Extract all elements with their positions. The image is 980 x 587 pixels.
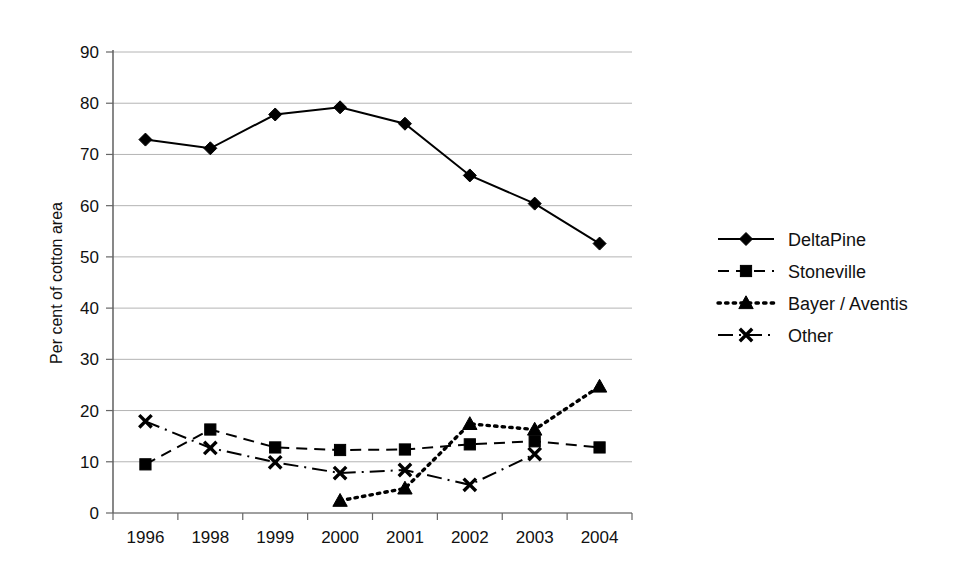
x-tick-label: 1996 [127,528,165,547]
data-point-marker [399,444,410,455]
x-tick-label: 2004 [581,528,619,547]
y-axis-title: Per cent of cotton area [48,202,65,364]
y-tick-label: 0 [90,504,99,523]
y-tick-label: 80 [80,94,99,113]
y-tick-label: 70 [80,145,99,164]
y-tick-label: 10 [80,453,99,472]
data-point-marker [334,444,345,455]
y-tick-label: 50 [80,248,99,267]
data-point-marker [529,436,540,447]
line-chart: 0102030405060708090 19961998199920002001… [0,0,980,587]
x-tick-label: 1998 [191,528,229,547]
legend-label: Other [788,326,833,346]
y-tick-label: 40 [80,299,99,318]
x-tick-label: 2002 [451,528,489,547]
legend-label: DeltaPine [788,230,866,250]
legend-marker-square-icon [740,265,751,276]
y-tick-label: 60 [80,197,99,216]
data-point-marker [140,459,151,470]
x-tick-label: 2001 [386,528,424,547]
x-tick-label: 1999 [256,528,294,547]
x-tick-label: 2000 [321,528,359,547]
chart-figure: 0102030405060708090 19961998199920002001… [0,0,980,587]
legend-label: Stoneville [788,262,866,282]
data-point-marker [464,439,475,450]
y-tick-label: 20 [80,402,99,421]
data-point-marker [205,424,216,435]
data-point-marker [270,442,281,453]
legend-label: Bayer / Aventis [788,294,908,314]
y-tick-label: 30 [80,350,99,369]
x-tick-label: 2003 [516,528,554,547]
data-point-marker [594,442,605,453]
y-tick-label: 90 [80,43,99,62]
